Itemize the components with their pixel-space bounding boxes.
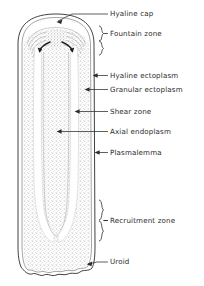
brace-fountain-zone <box>99 26 108 41</box>
arrowhead-plasmalemma <box>95 150 100 155</box>
brace-recruitment-zone <box>99 200 108 221</box>
label-axial-endoplasm: Axial endoplasm <box>110 128 171 136</box>
label-plasmalemma: Plasmalemma <box>110 149 162 157</box>
label-recruitment-zone: Recruitment zone <box>110 217 175 225</box>
label-fountain-zone: Fountain zone <box>110 30 162 38</box>
brace-fountain-zone-lower <box>99 41 104 55</box>
brace-recruitment-zone-lower <box>99 221 104 241</box>
label-hyaline-cap: Hyaline cap <box>110 10 153 18</box>
axial-endoplasm-core <box>43 48 69 237</box>
amoeba-diagram-figure: Hyaline cap Fountain zone Hyaline ectopl… <box>0 0 204 286</box>
cell-body <box>18 14 95 276</box>
diagram-canvas <box>0 0 204 286</box>
label-hyaline-ectoplasm: Hyaline ectoplasm <box>110 72 178 80</box>
label-shear-zone: Shear zone <box>110 108 151 116</box>
label-uroid: Uroid <box>110 258 130 266</box>
label-granular-ectoplasm: Granular ectoplasm <box>110 86 183 94</box>
